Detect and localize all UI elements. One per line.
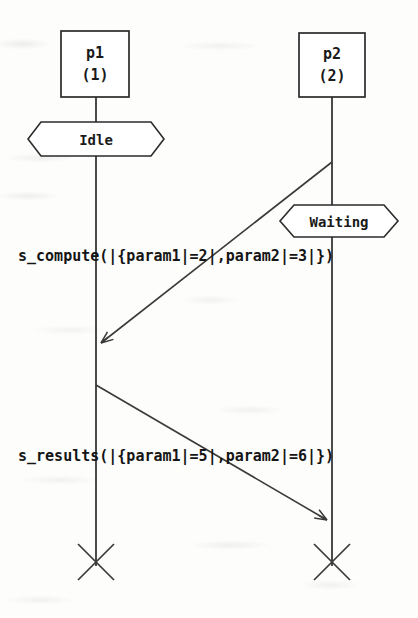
message-s-results[interactable]: s_results(|{param1|=5|,param2|=6|}) [18, 385, 334, 520]
lifeline-p2-head-box[interactable] [299, 33, 365, 97]
state-waiting-label: Waiting [309, 214, 368, 230]
state-idle-label: Idle [79, 132, 113, 148]
lifeline-p2-name: p2 [323, 45, 341, 63]
lifeline-p2-index: (2) [318, 67, 345, 85]
state-waiting[interactable]: Waiting [280, 205, 398, 237]
message-s-compute-label: s_compute(|{param1|=2|,param2|=3|}) [18, 247, 334, 266]
lifeline-p2[interactable]: p2 (2) [299, 33, 365, 580]
lifeline-p1-index: (1) [81, 66, 108, 84]
message-s-compute[interactable]: s_compute(|{param1|=2|,param2|=3|}) [18, 162, 334, 343]
sequence-diagram-page: p1 (1) p2 (2) Idle Waiting [0, 0, 418, 618]
sequence-diagram-canvas: p1 (1) p2 (2) Idle Waiting [0, 0, 418, 618]
lifeline-p1-name: p1 [86, 44, 104, 62]
lifeline-p1[interactable]: p1 (1) [61, 31, 129, 580]
lifeline-p1-head-box[interactable] [61, 31, 129, 97]
message-s-results-label: s_results(|{param1|=5|,param2|=6|}) [18, 447, 334, 466]
state-idle[interactable]: Idle [28, 122, 164, 156]
